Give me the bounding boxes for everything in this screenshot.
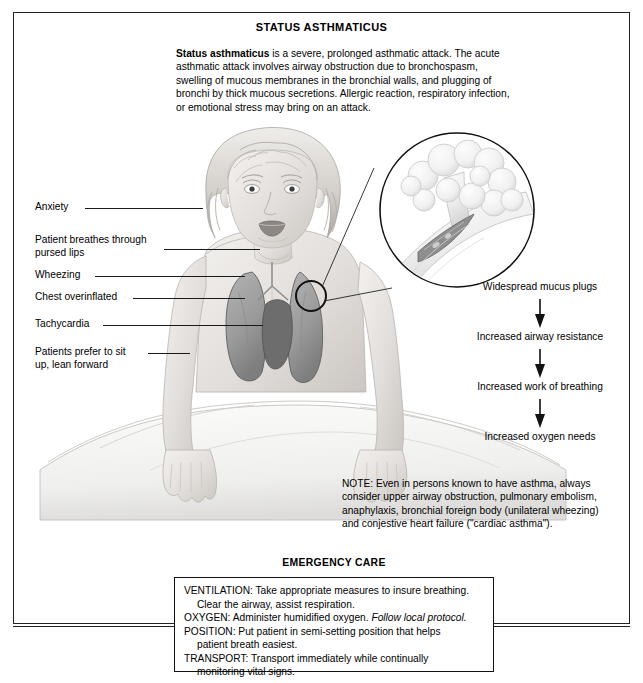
intro-paragraph: Status asthmaticus is a severe, prolonge… [176,47,516,114]
leader-line-wheezing [95,276,245,277]
emergency-care-line-text: TRANSPORT: Transport immediately while c… [184,653,428,664]
emergency-care-line: OXYGEN: Administer humidified oxygen. Fo… [184,611,485,625]
leader-line-anxiety [85,208,203,209]
sign-label-wheezing: Wheezing [35,268,80,281]
intro-lead-term: Status asthmaticus [176,48,269,59]
pathway-step-2: Increased airway resistance [445,330,635,343]
emergency-care-line-text: monitoring vital signs. [197,666,295,677]
sign-label-tachycardia: Tachycardia [35,317,89,330]
sign-label-pursed-lips: Patient breathes through pursed lips [35,233,147,260]
leader-line-chest-overinflated [133,298,245,299]
emergency-care-line-text: Clear the airway, assist respiration. [197,599,355,610]
diagram-page: STATUS ASTHMATICUS Status asthmaticus is… [0,0,643,683]
emergency-care-line-emphasis: Follow local protocol. [371,612,466,623]
note-text: NOTE: Even in persons known to have asth… [342,477,602,531]
pathway-step-3: Increased work of breathing [445,380,635,393]
emergency-care-line: Clear the airway, assist respiration. [184,598,485,612]
emergency-care-heading: EMERGENCY CARE [174,557,494,568]
emergency-care-line-text: OXYGEN: Administer humidified oxygen. [184,612,371,623]
leader-line-tachycardia [103,325,263,326]
emergency-care-line-text: VENTILATION: Take appropriate measures t… [184,585,469,596]
emergency-care-line: POSITION: Put patient in semi-setting po… [184,625,485,639]
pathway-step-1: Widespread mucus plugs [445,280,635,293]
sign-label-anxiety: Anxiety [35,200,68,213]
emergency-care-line: patient breath easiest. [184,638,485,652]
leader-line-pursed-lips [164,249,260,250]
pathway-step-4: Increased oxygen needs [445,430,635,443]
sign-label-sit-up-lean-forward: Patients prefer to sit up, lean forward [35,345,126,372]
emergency-care-line: monitoring vital signs. [184,665,485,679]
emergency-care-line-text: POSITION: Put patient in semi-setting po… [184,626,441,637]
emergency-care-box: VENTILATION: Take appropriate measures t… [174,577,494,672]
emergency-care-line: VENTILATION: Take appropriate measures t… [184,584,485,598]
page-title: STATUS ASTHMATICUS [0,21,643,33]
leader-line-sit-up-lean-forward [148,353,190,354]
emergency-care-line-text: patient breath easiest. [197,639,297,650]
emergency-care-line: TRANSPORT: Transport immediately while c… [184,652,485,666]
sign-label-chest-overinflated: Chest overinflated [35,290,117,303]
